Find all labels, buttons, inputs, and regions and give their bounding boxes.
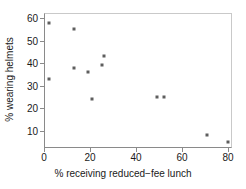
x-tick-label: 40 [130,152,141,163]
y-tick-label: 30 [14,80,38,91]
scatter-plot-figure: % receiving reduced−fee lunch % wearing … [0,0,246,189]
data-point [206,134,209,137]
y-tick-label: 50 [14,35,38,46]
x-tick-label: 20 [84,152,95,163]
y-tick-label: 40 [14,58,38,69]
x-tick-label: 60 [176,152,187,163]
x-tick-label: 0 [41,152,47,163]
y-tick-label: 20 [14,103,38,114]
y-tick-mark [40,86,44,87]
data-point [155,95,158,98]
y-tick-label: 60 [14,13,38,24]
data-point [162,95,165,98]
plot-data-area [44,18,228,153]
y-tick-mark [40,108,44,109]
y-tick-mark [40,41,44,42]
data-point [100,64,103,67]
x-axis-label: % receiving reduced−fee lunch [0,168,246,179]
data-point [91,98,94,101]
data-point [227,140,230,143]
y-tick-mark [40,18,44,19]
data-point [47,21,50,24]
y-tick-mark [40,63,44,64]
x-tick-label: 80 [222,152,233,163]
data-point [86,71,89,74]
data-point [72,28,75,31]
data-point [102,55,105,58]
data-point [47,77,50,80]
data-point [72,66,75,69]
y-tick-label: 10 [14,125,38,136]
y-axis-label: % wearing helmets [4,20,15,140]
y-tick-mark [40,131,44,132]
